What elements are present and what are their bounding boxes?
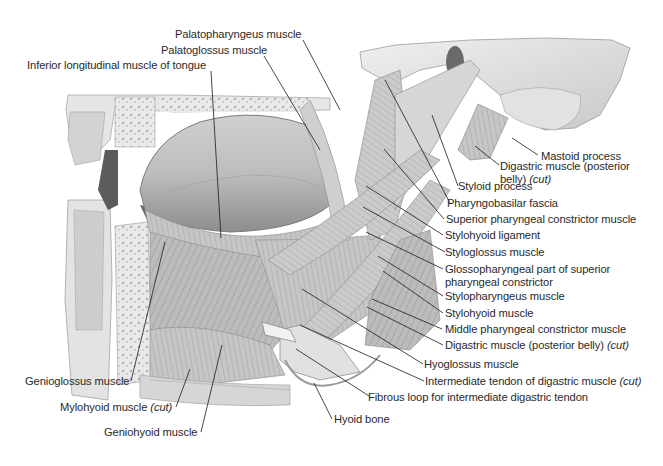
label-intermediate-tendon: Intermediate tendon of digastric muscle … (425, 375, 641, 388)
label-stylopharyngeus: Stylopharyngeus muscle (445, 290, 565, 303)
label-glossopharyngeal-part: Glossopharyngeal part of superior pharyn… (445, 263, 610, 289)
cut-note: (cut) (529, 173, 551, 185)
label-text: Glossopharyngeal part of superior (445, 263, 610, 275)
cut-note: (cut) (150, 401, 172, 413)
label-styloglossus: Styloglossus muscle (445, 246, 544, 259)
label-palatopharyngeus: Palatopharyngeus muscle (175, 28, 301, 41)
label-inferior-longitudinal: Inferior longitudinal muscle of tongue (27, 59, 206, 72)
label-text: Intermediate tendon of digastric muscle (425, 375, 616, 387)
label-text: Mylohyoid muscle (60, 401, 147, 413)
label-palatoglossus: Palatoglossus muscle (161, 44, 267, 57)
label-genioglossus: Genioglossus muscle (25, 375, 129, 388)
label-text: Digastric muscle (posterior belly) (445, 339, 604, 351)
label-text-2: pharyngeal constrictor (445, 276, 553, 288)
label-text: Digastric muscle (posterior (500, 160, 630, 172)
label-pharyngobasilar-fascia: Pharyngobasilar fascia (447, 197, 558, 210)
label-hyoid-bone: Hyoid bone (334, 413, 390, 426)
cut-note: (cut) (607, 339, 629, 351)
cut-note: (cut) (619, 375, 641, 387)
label-styloid-process: Styloid process (458, 180, 532, 193)
label-hyoglossus: Hyoglossus muscle (424, 358, 519, 371)
label-stylohyoid-ligament: Stylohyoid ligament (445, 229, 540, 242)
label-mylohyoid: Mylohyoid muscle (cut) (60, 401, 172, 414)
label-digastric-posterior-belly-lower: Digastric muscle (posterior belly) (cut) (445, 339, 629, 352)
label-middle-constrictor: Middle pharyngeal constrictor muscle (445, 323, 626, 336)
label-fibrous-loop: Fibrous loop for intermediate digastric … (368, 391, 588, 404)
label-superior-constrictor: Superior pharyngeal constrictor muscle (446, 213, 636, 226)
label-geniohyoid: Geniohyoid muscle (104, 426, 197, 439)
label-stylohyoid-muscle: Stylohyoid muscle (445, 307, 533, 320)
